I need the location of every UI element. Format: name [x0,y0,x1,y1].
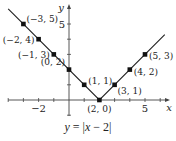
point-label: (4, 2) [134,67,158,77]
plot-area: −255xy(−3, 5)(−2, 4)(−1, 3)(0, 2)(1, 1)(… [0,0,176,120]
data-point [21,22,26,27]
data-point [97,98,102,103]
data-point [67,67,72,72]
point-label: (1, 1) [88,76,112,86]
data-point [36,37,41,42]
x-tick-label: −2 [31,103,46,114]
y-tick-label: 5 [59,19,65,30]
point-label: (2, 0) [87,104,111,114]
y-axis-label: y [57,2,64,13]
data-point [112,83,117,88]
caption-eq: = | [70,120,85,134]
data-point [143,52,148,57]
point-label: (−2, 4) [3,35,35,45]
data-point [128,67,133,72]
point-label: (3, 1) [118,86,142,96]
equation-caption: y = |x − 2| [0,120,176,135]
x-axis-label: x [166,102,172,113]
point-label: (0, 2) [41,57,65,67]
point-label: (5, 3) [149,51,173,61]
graph-figure: −255xy(−3, 5)(−2, 4)(−1, 3)(0, 2)(1, 1)(… [0,0,176,141]
y-axis-arrow-icon [67,4,71,9]
data-point [82,83,87,88]
point-label: (−3, 5) [26,14,58,24]
caption-rest: − 2| [90,120,111,134]
x-tick-label: 5 [142,103,148,114]
